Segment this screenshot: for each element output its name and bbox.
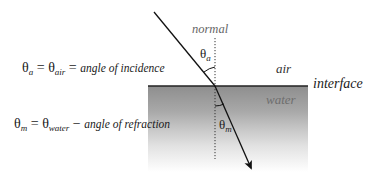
theta-a-label: θa <box>200 46 211 63</box>
theta-m-label: θm <box>219 117 232 134</box>
air-label: air <box>276 61 291 77</box>
incidence-angle-arc <box>204 67 215 72</box>
refraction-equation: θm = θwater − angle of refraction <box>14 116 170 133</box>
water-label: water <box>266 92 296 108</box>
incidence-equation: θa = θair = angle of incidence <box>22 60 165 77</box>
refraction-angle-arc <box>215 104 224 106</box>
normal-label: normal <box>192 22 228 37</box>
interface-label: interface <box>313 76 363 92</box>
